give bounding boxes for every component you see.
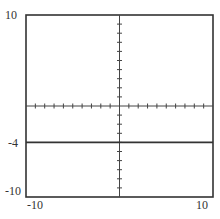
y-tick-label-bottom: -10	[5, 185, 21, 197]
y-tick-label-line: -4	[8, 137, 18, 149]
x-tick-label-right: 10	[196, 199, 208, 211]
axes	[26, 15, 213, 197]
y-tick-label-top: 10	[5, 9, 17, 21]
x-tick-label-left: -10	[27, 199, 43, 211]
plot-area	[0, 0, 220, 219]
